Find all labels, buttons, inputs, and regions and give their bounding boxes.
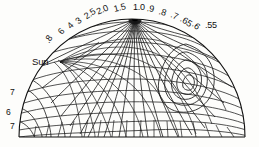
sky-dome-figure: .86432.52.01.51.0.9.8.7.65.6.55767Sun xyxy=(0,0,259,147)
sun-label: Sun xyxy=(32,57,48,66)
margin-contour-label: 6 xyxy=(6,108,11,117)
arc-contour-label: .9 xyxy=(146,4,155,14)
dome-interior xyxy=(14,13,251,137)
sky-dome-plot xyxy=(0,0,259,147)
arc-contour-label: 1.0 xyxy=(133,3,145,12)
zenith-node xyxy=(129,16,142,25)
margin-contour-label: 7 xyxy=(10,122,15,131)
arc-contour-label: .55 xyxy=(205,21,217,30)
margin-contour-label: 7 xyxy=(10,88,15,97)
